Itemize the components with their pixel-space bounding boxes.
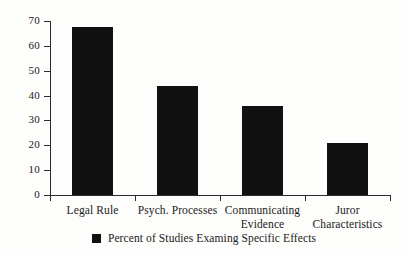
- y-axis-tick-label: 50: [0, 65, 40, 76]
- y-axis-tick-label-wrap: 70: [0, 15, 40, 26]
- y-axis-tick-label-wrap: 30: [0, 114, 40, 125]
- y-axis-tick-label: 0: [0, 189, 40, 200]
- legend-swatch-icon: [92, 234, 101, 243]
- y-axis-tick-label-wrap: 60: [0, 40, 40, 51]
- legend-label: Percent of Studies Examing Specific Effe…: [108, 232, 316, 245]
- x-axis-tick: [305, 195, 306, 201]
- y-axis-tick-label-wrap: 0: [0, 189, 40, 200]
- plot-area: [50, 22, 390, 195]
- legend: Percent of Studies Examing Specific Effe…: [0, 232, 408, 245]
- bar: [72, 27, 113, 195]
- y-axis-tick-label-wrap: 40: [0, 90, 40, 101]
- y-axis-tick-label: 20: [0, 139, 40, 150]
- category-label: JurorCharacteristics: [293, 203, 403, 231]
- y-axis-tick-label: 60: [0, 40, 40, 51]
- x-axis-tick: [220, 195, 221, 201]
- category-label-line: Characteristics: [293, 217, 403, 231]
- x-axis-tick: [135, 195, 136, 201]
- category-label-line: Juror: [293, 203, 403, 217]
- y-axis-tick-label: 70: [0, 15, 40, 26]
- y-axis-tick-label: 30: [0, 114, 40, 125]
- bar: [327, 143, 368, 195]
- bar: [242, 106, 283, 195]
- y-axis-tick-label-wrap: 50: [0, 65, 40, 76]
- bar: [157, 86, 198, 195]
- y-axis-tick-label-wrap: 10: [0, 164, 40, 175]
- x-axis-tick: [390, 195, 391, 201]
- y-axis-tick-label-wrap: 20: [0, 139, 40, 150]
- bar-chart-figure: 010203040506070 Legal RulePsych. Process…: [0, 0, 408, 255]
- y-axis-tick-label: 40: [0, 90, 40, 101]
- x-axis-tick: [50, 195, 51, 201]
- y-axis-tick-label: 10: [0, 164, 40, 175]
